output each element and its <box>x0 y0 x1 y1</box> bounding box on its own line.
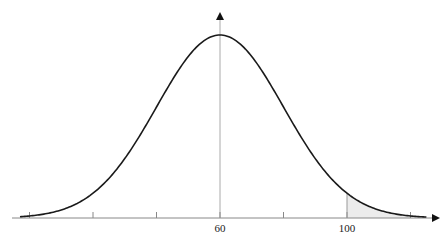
x-axis-arrow-icon <box>432 214 440 222</box>
y-axis-arrow-icon <box>216 12 224 20</box>
x-tick-labels: 60100 <box>215 222 356 234</box>
normal-curve-chart: 60100 <box>0 0 441 240</box>
x-tick-label: 60 <box>215 222 227 234</box>
x-tick-label: 100 <box>339 222 356 234</box>
density-curve <box>20 35 426 217</box>
